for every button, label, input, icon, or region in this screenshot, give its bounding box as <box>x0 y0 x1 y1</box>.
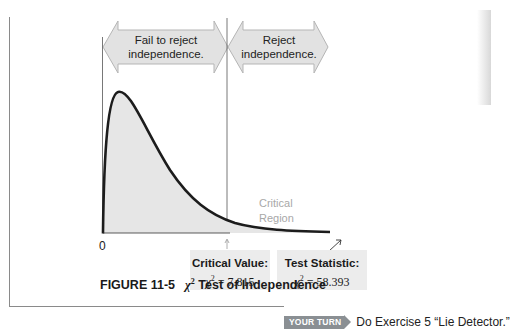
reject-line2: independence. <box>236 47 322 61</box>
critical-region-line2: Region <box>259 211 294 226</box>
reject-line1: Reject <box>236 33 322 47</box>
zero-label: 0 <box>99 239 106 253</box>
your-turn-text: Do Exercise 5 “Lie Detector.” <box>356 315 509 329</box>
your-turn-callout: YOUR TURN Do Exercise 5 “Lie Detector.” <box>284 315 510 329</box>
fail-to-reject-line2: independence. <box>118 47 214 61</box>
chi-symbol: χ2 <box>185 278 195 292</box>
fail-to-reject-label: Fail to reject independence. <box>118 33 214 61</box>
figure-number: FIGURE 11-5 <box>100 278 175 292</box>
test-statistic-title: Test Statistic: <box>277 250 367 271</box>
critical-region-label: Critical Region <box>259 196 294 226</box>
your-turn-badge: YOUR TURN <box>284 316 344 329</box>
critical-value-title: Critical Value: <box>190 250 270 271</box>
reject-label: Reject independence. <box>236 33 322 61</box>
critical-region-line1: Critical <box>259 196 294 211</box>
fail-to-reject-line1: Fail to reject <box>118 33 214 47</box>
figure-title: Test of Independence <box>198 278 326 292</box>
figure-caption: FIGURE 11-5χ2 Test of Independence <box>100 277 326 293</box>
